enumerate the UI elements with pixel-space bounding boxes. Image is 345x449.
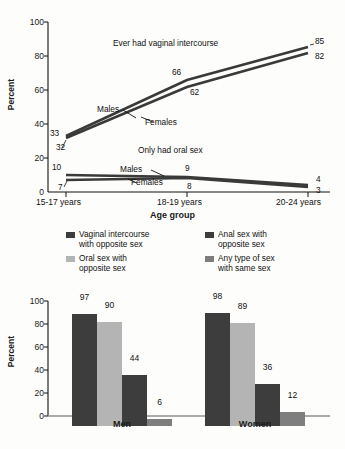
annotation-males-vaginal: Males <box>97 105 119 114</box>
bar-value-men-vaginal: 97 <box>72 292 97 302</box>
legend-label-same-sex-line2: with same sex <box>218 263 271 273</box>
leader-value-85 <box>310 44 314 45</box>
value-9: 9 <box>185 164 190 172</box>
line-chart-plot <box>0 0 345 210</box>
value-32: 32 <box>56 143 65 151</box>
legend-swatch-icon-same-sex <box>205 256 214 262</box>
value-82: 82 <box>315 52 324 60</box>
legend-item-anal-sex: Anal sex with opposite sex <box>205 230 315 249</box>
bar-group-label-men: Men <box>72 419 172 429</box>
leader-value-7 <box>64 181 67 187</box>
series-vaginal-females <box>66 53 308 138</box>
bar-women-vaginal <box>205 313 230 426</box>
bar-value-women-vaginal: 98 <box>205 291 230 301</box>
bar-chart-legend: Vaginal intercourse with opposite sex An… <box>0 229 345 281</box>
annotation-ever-had-vaginal-intercourse: Ever had vaginal intercourse <box>113 39 218 48</box>
legend-label-oral-line2: opposite sex <box>79 263 126 273</box>
legend-label-same-sex-line1: Any type of sex <box>218 253 275 263</box>
line-x-tick-18-19: 18-19 years <box>157 197 202 207</box>
line-chart-x-axis-title: Age group <box>0 210 345 220</box>
annotation-females-vaginal: Females <box>145 118 177 127</box>
line-x-tick-20-24: 20-24 years <box>276 197 321 207</box>
value-4: 4 <box>316 175 321 183</box>
annotation-males-oral: Males <box>120 165 142 174</box>
bar-group-label-women: Women <box>205 419 305 429</box>
legend-swatch-icon-anal <box>205 232 214 238</box>
legend-label-vaginal-line2: with opposite sex <box>79 239 143 249</box>
legend-swatch-icon-vaginal <box>66 232 75 238</box>
bar-chart-plot <box>0 283 345 423</box>
bar-value-men-oral: 90 <box>97 300 122 310</box>
legend-label-vaginal-line1: Vaginal intercourse <box>79 229 149 239</box>
value-10: 10 <box>52 163 61 171</box>
value-33: 33 <box>50 129 59 137</box>
bar-men-oral <box>97 322 122 426</box>
bar-women-oral <box>230 323 255 426</box>
bar-value-women-same-sex: 12 <box>280 390 305 400</box>
value-7: 7 <box>58 183 63 191</box>
legend-label-anal-line1: Anal sex with <box>218 229 267 239</box>
line-chart: Percent 100 80 60 40 20 0 <box>0 0 345 226</box>
value-62: 62 <box>190 88 199 96</box>
bar-value-men-anal: 44 <box>122 353 147 363</box>
annotation-females-oral: Females <box>131 178 163 187</box>
bar-value-men-same-sex: 6 <box>147 397 172 407</box>
legend-item-vaginal-intercourse: Vaginal intercourse with opposite sex <box>66 230 176 249</box>
line-x-tick-15-17: 15-17 years <box>36 197 81 207</box>
bar-value-women-oral: 89 <box>230 301 255 311</box>
value-3: 3 <box>316 186 321 194</box>
bar-chart: Percent 100 80 60 40 20 0 97 90 44 6 <box>0 283 345 433</box>
leader-males-bottom <box>151 170 164 176</box>
annotation-only-had-oral-sex: Only had oral sex <box>138 146 203 155</box>
bar-men-vaginal <box>72 314 97 426</box>
figure-root: Percent 100 80 60 40 20 0 <box>0 0 345 449</box>
legend-label-anal-line2: opposite sex <box>218 239 265 249</box>
legend-item-oral-sex: Oral sex with opposite sex <box>66 254 176 273</box>
value-66: 66 <box>172 68 181 76</box>
bar-value-women-anal: 36 <box>255 362 280 372</box>
legend-swatch-icon-oral <box>66 256 75 262</box>
value-8: 8 <box>187 182 192 190</box>
legend-label-oral-line1: Oral sex with <box>79 253 127 263</box>
value-85: 85 <box>315 37 324 45</box>
legend-item-same-sex: Any type of sex with same sex <box>205 254 315 273</box>
